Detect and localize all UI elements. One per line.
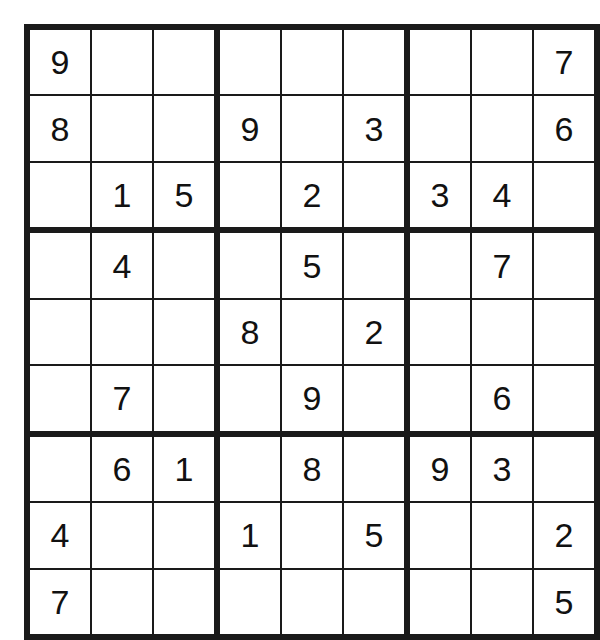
sudoku-cell-given[interactable]: 2 — [343, 299, 407, 365]
sudoku-cell-given[interactable]: 9 — [217, 95, 281, 161]
sudoku-cell-value: 5 — [282, 249, 342, 283]
sudoku-cell-given[interactable]: 7 — [27, 569, 91, 637]
sudoku-cell-empty[interactable] — [27, 434, 91, 502]
sudoku-cell-empty[interactable] — [407, 502, 471, 568]
sudoku-cell-value: 3 — [472, 452, 532, 486]
sudoku-cell-value: 2 — [344, 315, 404, 349]
sudoku-cell-empty[interactable] — [91, 569, 153, 637]
sudoku-cell-given[interactable]: 5 — [533, 569, 597, 637]
sudoku-cell-given[interactable]: 1 — [153, 434, 217, 502]
sudoku-cell-empty[interactable] — [217, 434, 281, 502]
sudoku-cell-given[interactable]: 9 — [407, 434, 471, 502]
sudoku-cell-empty[interactable] — [153, 27, 217, 95]
sudoku-cell-empty[interactable] — [153, 502, 217, 568]
sudoku-cell-empty[interactable] — [91, 27, 153, 95]
sudoku-cell-given[interactable]: 9 — [27, 27, 91, 95]
sudoku-cell-given[interactable]: 5 — [153, 162, 217, 230]
sudoku-cell-given[interactable]: 6 — [471, 365, 533, 433]
sudoku-cell-empty[interactable] — [407, 95, 471, 161]
sudoku-cell-empty[interactable] — [533, 434, 597, 502]
sudoku-row: 4152 — [27, 502, 597, 568]
sudoku-cell-empty[interactable] — [217, 569, 281, 637]
sudoku-cell-given[interactable]: 8 — [217, 299, 281, 365]
sudoku-cell-value: 6 — [92, 452, 152, 486]
sudoku-cell-given[interactable]: 1 — [217, 502, 281, 568]
sudoku-cell-empty[interactable] — [343, 434, 407, 502]
sudoku-cell-empty[interactable] — [27, 365, 91, 433]
sudoku-cell-empty[interactable] — [217, 162, 281, 230]
sudoku-cell-empty[interactable] — [343, 27, 407, 95]
sudoku-cell-empty[interactable] — [281, 95, 343, 161]
sudoku-cell-empty[interactable] — [217, 230, 281, 298]
sudoku-cell-value: 7 — [472, 249, 532, 283]
sudoku-cell-empty[interactable] — [533, 299, 597, 365]
sudoku-cell-empty[interactable] — [471, 299, 533, 365]
sudoku-cell-given[interactable]: 9 — [281, 365, 343, 433]
sudoku-cell-empty[interactable] — [153, 299, 217, 365]
sudoku-cell-empty[interactable] — [471, 569, 533, 637]
sudoku-cell-given[interactable]: 6 — [91, 434, 153, 502]
sudoku-cell-empty[interactable] — [471, 95, 533, 161]
sudoku-cell-empty[interactable] — [281, 502, 343, 568]
sudoku-cell-value: 1 — [220, 518, 280, 552]
sudoku-cell-empty[interactable] — [217, 27, 281, 95]
sudoku-cell-empty[interactable] — [27, 299, 91, 365]
sudoku-cell-given[interactable]: 2 — [281, 162, 343, 230]
sudoku-cell-empty[interactable] — [533, 162, 597, 230]
sudoku-row: 15234 — [27, 162, 597, 230]
sudoku-cell-empty[interactable] — [91, 299, 153, 365]
sudoku-cell-empty[interactable] — [343, 230, 407, 298]
sudoku-cell-value: 6 — [472, 381, 532, 415]
sudoku-cell-empty[interactable] — [281, 569, 343, 637]
sudoku-cell-value: 5 — [344, 518, 404, 552]
sudoku-cell-empty[interactable] — [153, 230, 217, 298]
sudoku-cell-empty[interactable] — [91, 95, 153, 161]
sudoku-cell-value: 9 — [30, 45, 90, 79]
sudoku-cell-given[interactable]: 3 — [471, 434, 533, 502]
sudoku-cell-empty[interactable] — [407, 27, 471, 95]
sudoku-cell-given[interactable]: 8 — [281, 434, 343, 502]
sudoku-cell-value: 3 — [410, 178, 470, 212]
sudoku-cell-given[interactable]: 6 — [533, 95, 597, 161]
sudoku-cell-empty[interactable] — [471, 502, 533, 568]
sudoku-cell-given[interactable]: 7 — [471, 230, 533, 298]
sudoku-cell-empty[interactable] — [281, 27, 343, 95]
sudoku-cell-empty[interactable] — [27, 162, 91, 230]
sudoku-cell-value: 1 — [154, 452, 214, 486]
sudoku-cell-empty[interactable] — [407, 230, 471, 298]
sudoku-cell-given[interactable]: 4 — [27, 502, 91, 568]
sudoku-cell-given[interactable]: 7 — [533, 27, 597, 95]
sudoku-cell-empty[interactable] — [153, 569, 217, 637]
sudoku-cell-value: 7 — [92, 381, 152, 415]
sudoku-cell-given[interactable]: 7 — [91, 365, 153, 433]
sudoku-grid-body: 978936152344578279661893415275 — [27, 27, 597, 637]
sudoku-cell-empty[interactable] — [533, 230, 597, 298]
sudoku-cell-empty[interactable] — [91, 502, 153, 568]
sudoku-cell-empty[interactable] — [343, 365, 407, 433]
sudoku-cell-empty[interactable] — [281, 299, 343, 365]
sudoku-cell-given[interactable]: 4 — [471, 162, 533, 230]
sudoku-cell-empty[interactable] — [407, 299, 471, 365]
sudoku-board: 978936152344578279661893415275 — [24, 24, 564, 604]
sudoku-cell-given[interactable]: 3 — [407, 162, 471, 230]
sudoku-cell-empty[interactable] — [153, 95, 217, 161]
sudoku-cell-empty[interactable] — [217, 365, 281, 433]
sudoku-cell-empty[interactable] — [343, 162, 407, 230]
sudoku-cell-value: 9 — [282, 381, 342, 415]
sudoku-cell-given[interactable]: 2 — [533, 502, 597, 568]
sudoku-cell-given[interactable]: 4 — [91, 230, 153, 298]
sudoku-row: 457 — [27, 230, 597, 298]
sudoku-cell-given[interactable]: 8 — [27, 95, 91, 161]
sudoku-cell-given[interactable]: 5 — [343, 502, 407, 568]
sudoku-cell-empty[interactable] — [533, 365, 597, 433]
sudoku-cell-empty[interactable] — [343, 569, 407, 637]
sudoku-cell-given[interactable]: 5 — [281, 230, 343, 298]
sudoku-cell-empty[interactable] — [27, 230, 91, 298]
sudoku-cell-empty[interactable] — [407, 365, 471, 433]
sudoku-cell-empty[interactable] — [407, 569, 471, 637]
sudoku-cell-given[interactable]: 3 — [343, 95, 407, 161]
sudoku-cell-given[interactable]: 1 — [91, 162, 153, 230]
sudoku-cell-empty[interactable] — [471, 27, 533, 95]
sudoku-cell-empty[interactable] — [153, 365, 217, 433]
